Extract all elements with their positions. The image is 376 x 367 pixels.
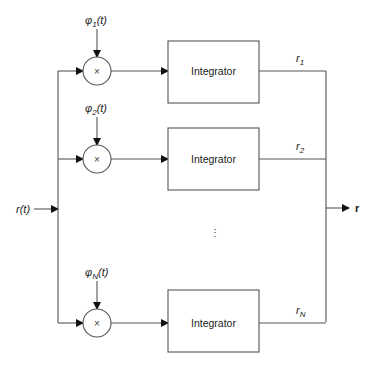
integrator-label: Integrator	[191, 153, 236, 165]
branch-2: φ2(t)×Integratorr2	[58, 102, 326, 190]
basis-label: φ2(t)	[85, 102, 107, 117]
integrator-label: Integrator	[191, 65, 236, 77]
branch-1: φ1(t)×Integratorr1	[58, 14, 326, 103]
multiplier-symbol: ×	[94, 318, 100, 329]
multiplier-symbol: ×	[94, 154, 100, 165]
integrator-label: Integrator	[191, 317, 236, 329]
branch-3: φN(t)×IntegratorrN	[58, 266, 326, 352]
input-label: r(t)	[16, 203, 30, 215]
branch-output-label: r1	[296, 52, 304, 67]
ellipsis: ⋮	[210, 227, 220, 238]
basis-label: φN(t)	[85, 266, 109, 281]
output-label: r	[355, 202, 360, 214]
branch-output-label: r2	[296, 140, 305, 155]
basis-label: φ1(t)	[85, 14, 107, 29]
branch-output-label: rN	[296, 304, 306, 319]
multiplier-symbol: ×	[94, 66, 100, 77]
correlator-diagram: r(t) r φ1(t)×Integratorr1φ2(t)×Integrato…	[0, 0, 376, 367]
